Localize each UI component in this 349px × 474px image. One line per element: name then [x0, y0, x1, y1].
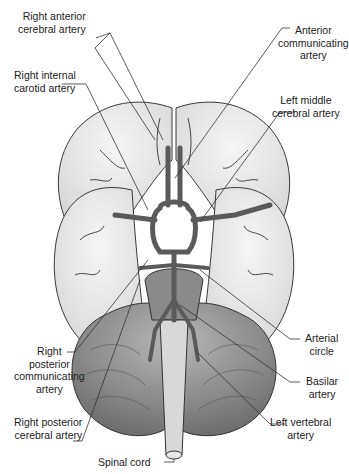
label-line: Spinal cord	[98, 456, 151, 469]
spinal-cord	[160, 320, 188, 459]
label-line: Arterial	[305, 332, 338, 345]
label-line: posterior	[14, 358, 85, 371]
label-line: cerebral artery	[14, 429, 82, 442]
label-left-vertebral-artery: Left vertebral artery	[270, 416, 331, 441]
label-line: carotid artery	[14, 82, 76, 95]
label-line: Anterior	[278, 24, 349, 37]
label-line: artery	[278, 49, 349, 62]
label-line: circle	[305, 345, 338, 358]
label-line: Right posterior	[14, 416, 82, 429]
label-line: Left vertebral	[270, 416, 331, 429]
label-line: cerebral artery	[18, 23, 86, 36]
label-basilar-artery: Basilar artery	[306, 375, 338, 400]
label-spinal-cord: Spinal cord	[98, 456, 151, 469]
label-line: communicating	[14, 370, 85, 383]
label-line: communicating	[278, 37, 349, 50]
label-right-posterior-cerebral-artery: Right posterior cerebral artery	[14, 416, 82, 441]
label-right-internal-carotid-artery: Right internal carotid artery	[14, 69, 76, 94]
label-right-posterior-communicating-artery: Right posterior communicating artery	[14, 345, 85, 395]
label-line: artery	[14, 383, 85, 396]
label-line: Right	[14, 345, 85, 358]
label-line: Right anterior	[18, 10, 86, 23]
label-line: artery	[306, 388, 338, 401]
label-line: cerebral artery	[272, 107, 340, 120]
label-line: artery	[270, 429, 331, 442]
label-right-anterior-cerebral-artery: Right anterior cerebral artery	[18, 10, 86, 35]
label-left-middle-cerebral-artery: Left middle cerebral artery	[272, 94, 340, 119]
label-line: Left middle	[272, 94, 340, 107]
label-arterial-circle: Arterial circle	[305, 332, 338, 357]
label-line: Right internal	[14, 69, 76, 82]
label-line: Basilar	[306, 375, 338, 388]
label-anterior-communicating-artery: Anterior communicating artery	[278, 24, 349, 62]
